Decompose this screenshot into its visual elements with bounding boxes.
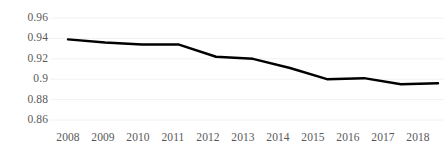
x-tick-label: 2018 — [398, 131, 438, 143]
x-tick-label: 2017 — [363, 131, 403, 143]
x-tick-label: 2014 — [258, 131, 298, 143]
x-tick-label: 2012 — [188, 131, 228, 143]
x-tick-label: 2009 — [83, 131, 123, 143]
x-tick-label: 2010 — [118, 131, 158, 143]
x-tick-label: 2011 — [153, 131, 193, 143]
x-tick-label: 2008 — [48, 131, 88, 143]
line-chart: 0.96 0.94 0.92 0.9 0.88 0.86 2008 2009 2… — [0, 0, 444, 154]
x-tick-label: 2016 — [328, 131, 368, 143]
x-tick-label: 2013 — [223, 131, 263, 143]
x-axis-tick-labels: 2008 2009 2010 2011 2012 2013 2014 2015 … — [0, 0, 444, 154]
x-tick-label: 2015 — [293, 131, 333, 143]
